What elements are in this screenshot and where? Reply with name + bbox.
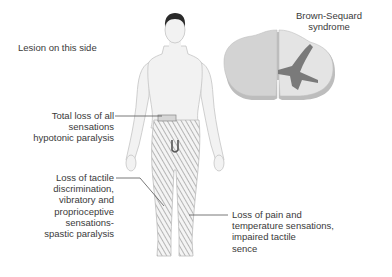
annotation-line: sensations — [33, 121, 114, 132]
annotation-line: proprioceptive — [44, 206, 114, 217]
human-figure — [126, 13, 224, 256]
annotation-line: impaired tactile — [232, 231, 334, 242]
annotation-line: discrimination, — [44, 183, 114, 194]
annotation-line: temperature sensations, — [232, 220, 334, 231]
annotation-line: Total loss of all — [33, 110, 114, 121]
right-hand — [214, 155, 224, 171]
right-arm — [200, 62, 224, 161]
annotation-line: Loss of tactile — [44, 172, 114, 183]
lesion-side-label: Lesion on this side — [18, 42, 97, 53]
annotation-ipsilateral: Loss of tactile discrimination, vibrator… — [44, 172, 114, 239]
diagram-title: Brown-Sequard syndrome — [296, 10, 362, 32]
annotation-line: sence — [232, 243, 334, 254]
spinal-cord-cross-section — [224, 30, 335, 100]
annotation-line: sensations- — [44, 217, 114, 228]
left-hand — [126, 155, 136, 171]
title-line-2: syndrome — [296, 21, 362, 32]
annotation-line: hypotonic paralysis — [33, 132, 114, 143]
hatched-lower-body — [152, 120, 200, 256]
title-line-1: Brown-Sequard — [296, 10, 362, 21]
annotation-line: vibratory and — [44, 194, 114, 205]
annotation-lesion-level: Total loss of all sensations hypotonic p… — [33, 110, 114, 144]
annotation-line: Loss of pain and — [232, 209, 334, 220]
left-arm — [126, 62, 150, 161]
annotation-contralateral: Loss of pain and temperature sensations,… — [232, 209, 334, 254]
cord-left-half-lesioned — [224, 30, 277, 96]
cord-right-half — [279, 30, 333, 96]
annotation-line: spastic paralysis — [44, 228, 114, 239]
